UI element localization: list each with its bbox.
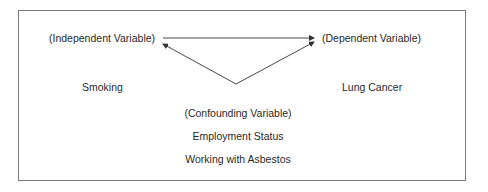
dependent-variable-role: (Dependent Variable) [322, 32, 421, 44]
dependent-variable-name: Lung Cancer [342, 81, 402, 93]
arrow-confounding-to-independent [163, 44, 236, 84]
confounding-example-asbestos: Working with Asbestos [185, 153, 290, 165]
confounding-example-employment: Employment Status [192, 130, 283, 142]
independent-variable-role: (Independent Variable) [49, 32, 155, 44]
independent-variable-name: Smoking [82, 81, 123, 93]
arrow-confounding-to-dependent [236, 42, 314, 84]
confounding-variable-role: (Confounding Variable) [184, 107, 291, 119]
